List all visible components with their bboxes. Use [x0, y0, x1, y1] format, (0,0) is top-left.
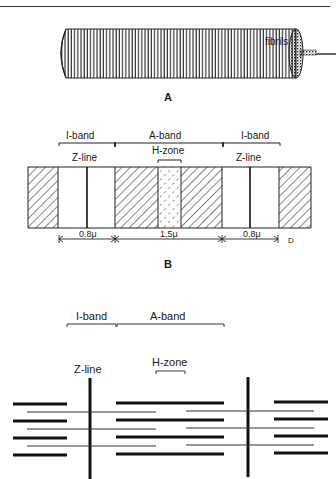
i-band-label-right: I-band — [241, 131, 269, 141]
c-a-band-label: A-band — [150, 311, 185, 321]
sarcomere-band-strip — [28, 167, 311, 228]
end-marker-label: D — [288, 236, 294, 246]
i-band-label-left: I-band — [66, 131, 94, 141]
dimension-right: 0.8μ — [243, 229, 261, 239]
c-h-zone-label: H-zone — [152, 357, 187, 367]
a-band-label: A-band — [149, 131, 181, 141]
thin-filaments — [27, 411, 314, 446]
part-a-label: A — [164, 92, 172, 102]
diagram-canvas — [0, 0, 336, 479]
z-line-label-left: Z-line — [72, 153, 97, 163]
c-z-line-label: Z-line — [74, 364, 102, 374]
h-zone-label: H-zone — [152, 146, 184, 156]
dimension-left: 0.8μ — [79, 229, 97, 239]
fibrils-label: fibrils — [265, 37, 288, 47]
part-b-label: B — [164, 259, 172, 269]
dimension-middle: 1.5μ — [160, 229, 178, 239]
z-line-label-right: Z-line — [236, 153, 261, 163]
c-i-band-label: I-band — [76, 311, 107, 321]
fibrils-strand — [300, 50, 336, 57]
